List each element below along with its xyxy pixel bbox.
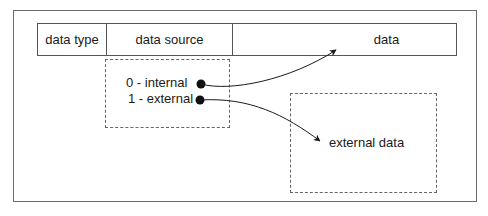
external-data-label: external data bbox=[329, 135, 404, 150]
option-internal-label: 0 - internal bbox=[126, 75, 187, 90]
header-cell-data-type: data type bbox=[38, 24, 106, 55]
header-cell-data: data bbox=[232, 24, 456, 55]
header-cell-data-source: data source bbox=[106, 24, 232, 55]
header-row: data type data source data bbox=[37, 23, 457, 56]
data-label: data bbox=[374, 32, 399, 47]
option-external-label: 1 - external bbox=[128, 91, 193, 106]
